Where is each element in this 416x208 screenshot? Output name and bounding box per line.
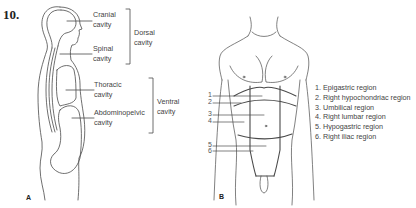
legend-item-3: 3. Umbilical region [315,103,411,113]
panel-letter-b: B [219,193,224,200]
region-legend: 1. Epigastric region 2. Right hypochondr… [315,83,411,142]
pointer-number-4: 4 [208,117,212,125]
legend-item-4: 4. Right lumbar region [315,112,411,122]
pointer-number-6: 6 [208,147,212,155]
legend-item-2: 2. Right hypochondriac region [315,93,411,103]
pointer-number-2: 2 [208,98,212,106]
legend-item-5: 5. Hypogastric region [315,122,411,132]
legend-item-6: 6. Right iliac region [315,132,411,142]
legend-item-1: 1. Epigastric region [315,83,411,93]
